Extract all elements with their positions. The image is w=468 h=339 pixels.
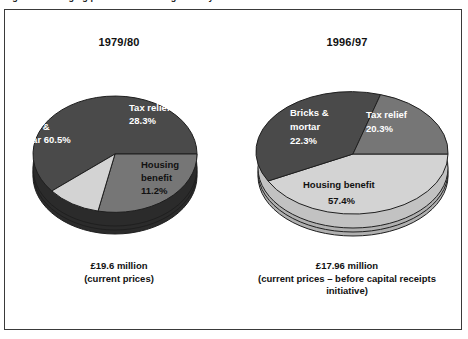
panel-title-right: 1996/97: [233, 36, 461, 48]
slice-label-housing-benefit-left-line1: Housing: [141, 159, 179, 170]
caption-right-line1: £17.96 million: [233, 260, 461, 273]
slice-label-tax-relief-right-line2: 20.3%: [366, 123, 393, 134]
pie-chart-1979-80: Tax relief 28.3% Housing benefit 11.2% B…: [5, 58, 233, 254]
pie-chart-1996-97: Bricks & mortar 22.3% Tax relief 20.3% H…: [233, 58, 461, 254]
chart-frame: 1979/80: [4, 9, 462, 330]
pie-panel-1979-80: 1979/80: [5, 10, 233, 329]
pie-panel-1996-97: 1996/97: [233, 10, 461, 329]
slice-label-tax-relief-left-line1: Tax relief: [129, 102, 171, 113]
clipped-figure-caption-text: Figure 1: Changing patterns of housing s…: [4, 0, 214, 2]
slice-label-housing-benefit-left-line2: benefit: [141, 172, 173, 183]
slice-label-housing-benefit-right-line1: Housing benefit: [303, 179, 376, 190]
clipped-figure-caption: Figure 1: Changing patterns of housing s…: [0, 0, 468, 8]
caption-left: £19.6 million (current prices): [5, 260, 233, 285]
slice-label-tax-relief-left-line2: 28.3%: [129, 115, 156, 126]
figure-root: Figure 1: Changing patterns of housing s…: [0, 0, 468, 339]
slice-label-bricks-mortar-right-line3: 22.3%: [290, 135, 317, 146]
slice-label-housing-benefit-left-line3: 11.2%: [141, 185, 168, 196]
caption-left-line1: £19.6 million: [5, 260, 233, 273]
slice-label-bricks-mortar-right-line2: mortar: [290, 121, 320, 132]
pie-svg-left: Tax relief 28.3% Housing benefit 11.2% B…: [5, 58, 233, 254]
slice-label-tax-relief-right-line1: Tax relief: [366, 109, 408, 120]
caption-right-line3: initiative): [233, 285, 461, 298]
slice-label-bricks-mortar-right-line1: Bricks &: [290, 107, 329, 118]
caption-right-line2: (current prices – before capital receipt…: [233, 273, 461, 286]
caption-right: £17.96 million (current prices – before …: [233, 260, 461, 298]
caption-left-line2: (current prices): [5, 273, 233, 286]
slice-label-bricks-mortar-left-line2: mortar 60.5%: [11, 134, 71, 145]
pie-svg-right: Bricks & mortar 22.3% Tax relief 20.3% H…: [233, 58, 461, 254]
panel-title-left: 1979/80: [5, 36, 233, 48]
slice-label-bricks-mortar-left-line1: Bricks &: [11, 121, 50, 132]
slice-label-housing-benefit-right-line2: 57.4%: [328, 195, 355, 206]
